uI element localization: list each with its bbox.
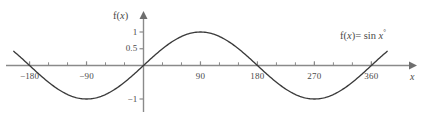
plot-canvas (0, 0, 427, 123)
x-tick-label: 90 (196, 72, 205, 81)
y-tick-label: −1 (128, 95, 138, 104)
x-tick-label: 270 (307, 72, 321, 81)
x-tick-label: −90 (79, 72, 94, 81)
y-tick-label: 1 (133, 28, 138, 37)
x-tick-label: 180 (250, 72, 264, 81)
equation-annotation: f(x)= sin x° (340, 29, 386, 41)
x-axis-title-text: x (410, 71, 414, 82)
equation-func: sin (364, 30, 376, 41)
x-axis-arrowhead (409, 62, 417, 70)
y-axis-title-close: ) (125, 10, 129, 21)
y-axis-title: f(x) (113, 11, 128, 22)
y-tick-label: 0.5 (126, 44, 138, 53)
x-axis-title: x (410, 72, 414, 82)
y-axis-arrowhead (140, 11, 148, 19)
equation-equals: = (355, 30, 361, 41)
x-tick-label: −180 (20, 72, 39, 81)
sine-function-graph-figure: f(x) x f(x)= sin x° −180−9090180270360 1… (0, 0, 427, 123)
degree-symbol: ° (383, 28, 386, 36)
x-tick-label: 360 (364, 72, 378, 81)
